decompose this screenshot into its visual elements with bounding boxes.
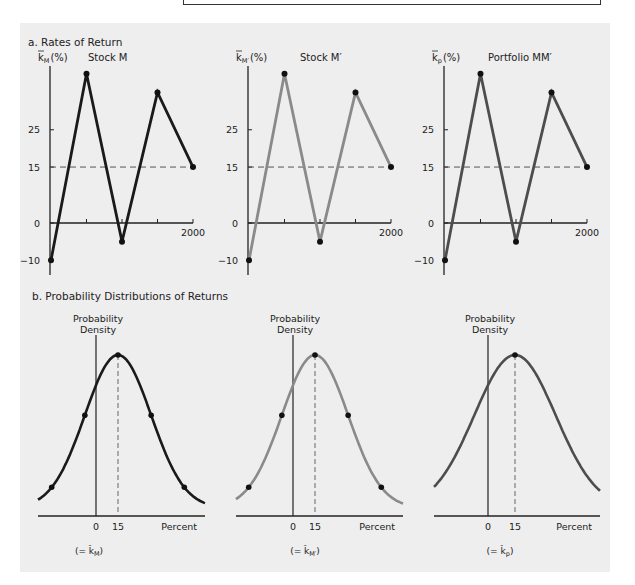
- x-tick-label: 0: [485, 521, 491, 532]
- y-axis-label: kM(%): [38, 52, 68, 65]
- chart-title: Stock M: [88, 52, 127, 63]
- expected-return-label: (= k̂p): [487, 545, 514, 558]
- y-tick-label: 0: [232, 218, 238, 229]
- y-tick-label: 25: [422, 124, 434, 135]
- y-axis-label: Probability: [73, 313, 124, 324]
- x-tick-label: 0: [290, 521, 296, 532]
- density-point: [181, 484, 187, 490]
- distribution-chart-2: ProbabilityDensity015Percent(= k̂M′): [236, 313, 403, 558]
- chart-title: Stock M′: [300, 52, 342, 63]
- y-tick-label: −10: [218, 255, 238, 266]
- data-point: [317, 239, 323, 245]
- y-axis-label: Probability: [270, 313, 321, 324]
- x-tick-label: 2000: [181, 227, 205, 238]
- density-point: [246, 484, 252, 490]
- data-point: [84, 71, 90, 77]
- x-tick-label: 2000: [379, 227, 403, 238]
- density-curve: [236, 355, 403, 504]
- distribution-chart-1: ProbabilityDensity015Percent(= k̂M): [38, 313, 205, 558]
- y-tick-label: 15: [28, 162, 40, 173]
- data-point: [584, 164, 590, 170]
- x-tick-label: 15: [112, 521, 124, 532]
- y-axis-label: Density: [277, 324, 313, 335]
- y-tick-label: 25: [28, 124, 40, 135]
- data-point: [246, 257, 252, 263]
- x-tick-label: 15: [509, 521, 521, 532]
- data-point: [155, 89, 161, 95]
- density-point: [279, 412, 285, 418]
- density-point: [115, 352, 121, 358]
- data-point: [353, 89, 359, 95]
- density-point: [378, 484, 384, 490]
- y-axis-label: Density: [472, 324, 508, 335]
- density-curve: [434, 355, 600, 491]
- return-chart-3: Portfolio MM′kp(%)−10015252000: [414, 51, 599, 275]
- y-tick-label: 0: [34, 218, 40, 229]
- data-point: [282, 71, 288, 77]
- y-tick-label: 25: [226, 124, 238, 135]
- y-axis-label: kM′(%): [236, 52, 267, 65]
- y-axis-label: kp(%): [432, 52, 460, 65]
- x-tick-label: 15: [309, 521, 321, 532]
- density-curve: [38, 355, 205, 503]
- y-axis-label: Probability: [465, 313, 516, 324]
- density-point: [512, 352, 518, 358]
- y-tick-label: −10: [20, 255, 40, 266]
- density-point: [312, 352, 318, 358]
- data-point: [513, 239, 519, 245]
- data-point: [388, 164, 394, 170]
- figure-svg: Stock MkM(%)−10015252000Stock M′kM′(%)−1…: [0, 0, 635, 585]
- density-point: [49, 484, 55, 490]
- data-point: [190, 164, 196, 170]
- data-point: [48, 257, 54, 263]
- data-point: [478, 71, 484, 77]
- density-point: [82, 412, 88, 418]
- data-point: [442, 257, 448, 263]
- y-tick-label: 15: [226, 162, 238, 173]
- expected-return-label: (= k̂M′): [290, 545, 320, 558]
- return-chart-1: Stock MkM(%)−10015252000: [20, 51, 205, 275]
- x-axis-label: Percent: [556, 521, 592, 532]
- return-chart-2: Stock M′kM′(%)−10015252000: [218, 51, 403, 275]
- distribution-chart-3: ProbabilityDensity015Percent(= k̂p): [434, 313, 600, 558]
- expected-return-label: (= k̂M): [75, 545, 103, 558]
- x-axis-label: Percent: [359, 521, 395, 532]
- y-tick-label: −10: [414, 255, 434, 266]
- density-point: [345, 412, 351, 418]
- chart-title: Portfolio MM′: [488, 52, 553, 63]
- y-axis-label: Density: [80, 324, 116, 335]
- data-point: [119, 239, 125, 245]
- data-point: [549, 89, 555, 95]
- x-tick-label: 0: [93, 521, 99, 532]
- y-tick-label: 0: [428, 218, 434, 229]
- x-axis-label: Percent: [161, 521, 197, 532]
- x-tick-label: 2000: [575, 227, 599, 238]
- density-point: [148, 412, 154, 418]
- y-tick-label: 15: [422, 162, 434, 173]
